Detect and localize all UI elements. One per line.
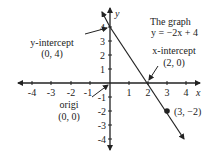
x-tick-label: 2 bbox=[146, 87, 151, 98]
x-tick-label: -4 bbox=[28, 87, 36, 98]
y-tick-label: -4 bbox=[98, 134, 106, 145]
x-axis bbox=[18, 81, 200, 85]
point-label: (3, −2) bbox=[174, 106, 201, 118]
y-intercept-title: y-intercept bbox=[30, 37, 74, 48]
y-tick-label: -1 bbox=[98, 92, 106, 103]
y-axis-label: y bbox=[114, 8, 120, 19]
x-tick-label: -3 bbox=[47, 87, 55, 98]
coordinate-plane: -4 -3 -2 -1 1 2 3 4 x 4 3 2 1 -1 -2 -3 -… bbox=[0, 0, 213, 158]
x-tick-label: 1 bbox=[127, 87, 132, 98]
y-tick-label: -3 bbox=[98, 120, 106, 131]
x-intercept-coords: (2, 0) bbox=[163, 57, 185, 69]
x-tick-label: 3 bbox=[165, 87, 170, 98]
y-tick-label: 1 bbox=[100, 64, 105, 75]
y-intercept-coords: (0, 4) bbox=[41, 48, 63, 60]
graph-title: The graph bbox=[150, 16, 191, 27]
x-tick-label: 4 bbox=[184, 87, 189, 98]
x-tick-label: -2 bbox=[67, 87, 75, 98]
y-tick-label: 2 bbox=[100, 50, 105, 61]
y-tick-label: -2 bbox=[98, 106, 106, 117]
origin-title: origi bbox=[60, 99, 79, 110]
x-axis-label: x bbox=[195, 87, 201, 98]
y-tick-label: 4 bbox=[100, 22, 105, 33]
graph-equation: y = −2x + 4 bbox=[151, 27, 198, 38]
x-intercept-title: x-intercept bbox=[152, 45, 196, 56]
y-tick-label: 3 bbox=[100, 36, 105, 47]
origin-coords: (0, 0) bbox=[58, 111, 80, 123]
data-point bbox=[164, 108, 170, 114]
x-tick-label: -1 bbox=[84, 87, 92, 98]
